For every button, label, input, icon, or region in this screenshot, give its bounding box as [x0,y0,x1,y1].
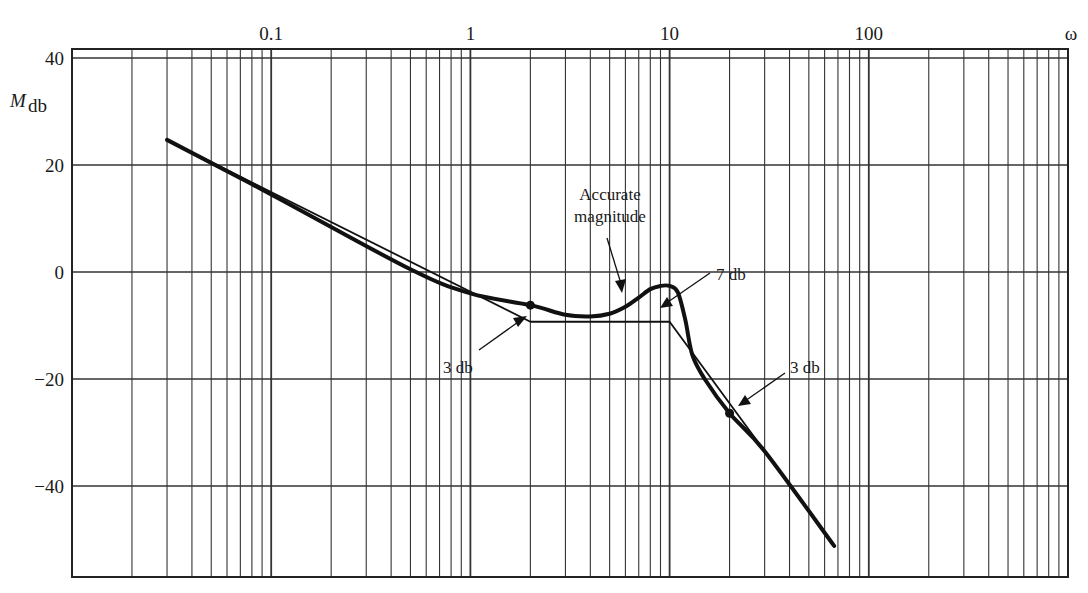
x-tick-label: 0.1 [259,23,283,44]
marker-dot [526,301,535,310]
grid [72,49,1068,577]
svg-text:3 db: 3 db [790,358,820,377]
svg-text:magnitude: magnitude [574,207,646,226]
y-tick-label: 40 [45,48,64,69]
plot-frame [72,49,1068,577]
x-tick-label: 10 [660,23,679,44]
svg-text:3 db: 3 db [443,358,473,377]
y-tick-label: 0 [55,262,65,283]
annotation-3db-high: 3 db [738,358,820,406]
bode-magnitude-chart: 0.1110100 40200−20−40 ω M db Accurate ma… [0,0,1088,593]
x-tick-label: 100 [855,23,884,44]
series-layer [167,140,834,546]
accurate-magnitude-curve [167,140,834,546]
annotation-3db-low: 3 db [443,316,527,377]
svg-text:Accurate: Accurate [579,185,640,204]
svg-text:db: db [28,95,47,116]
x-axis-label: ω [1065,23,1078,44]
y-tick-label: −20 [34,369,64,390]
y-tick-label: 20 [45,155,64,176]
y-axis-label: M db [9,90,47,116]
asymptote-line [167,140,834,546]
x-tick-labels: 0.1110100 [259,23,883,44]
y-tick-label: −40 [34,476,64,497]
x-tick-label: 1 [466,23,476,44]
marker-dot [725,409,734,418]
svg-text:M: M [9,90,27,111]
svg-text:7 db: 7 db [716,265,746,284]
